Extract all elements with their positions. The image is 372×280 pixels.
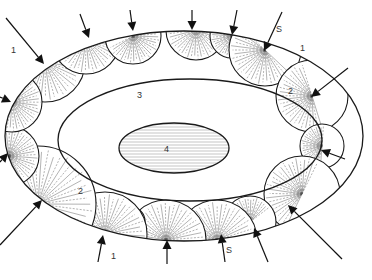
- label-region-1-top-right: 1: [300, 43, 305, 53]
- arrow-icon: [163, 240, 172, 264]
- arrow-icon: [0, 200, 42, 245]
- arrow-icon: [6, 18, 44, 64]
- label-region-1-top-left: 1: [11, 45, 16, 55]
- arrow-icon: [97, 235, 106, 262]
- arrow-icon: [288, 205, 342, 259]
- arrow-icon: [253, 228, 268, 262]
- label-region-1-bottom: 1: [111, 251, 116, 261]
- label-region-2-right: 2: [288, 86, 293, 96]
- label-marker-s-bottom: S: [226, 245, 232, 255]
- arrow-icon: [0, 94, 11, 102]
- arrow-icon: [229, 10, 238, 35]
- label-region-2-left: 2: [78, 186, 83, 196]
- label-region-4: 4: [164, 144, 169, 154]
- arrow-icon: [127, 10, 136, 31]
- arrow-icon: [80, 14, 90, 38]
- arrow-icon: [188, 10, 197, 30]
- ellipse-diagram: 1 1 1 2 2 3 4 S S: [0, 0, 372, 280]
- core-region: [115, 123, 235, 173]
- marginal-zones: [0, 0, 348, 280]
- arrow-icon: [0, 153, 8, 163]
- label-marker-s-top: S: [276, 24, 282, 34]
- label-region-3: 3: [137, 90, 142, 100]
